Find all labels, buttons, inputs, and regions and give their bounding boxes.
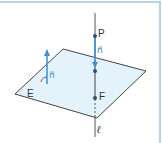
plane-e [15,49,146,118]
label-line-l: ℓ [97,125,100,135]
label-f: F [99,92,105,102]
label-normal-right: n⃗ [97,45,103,55]
arrowhead-up-icon [44,49,50,56]
diagram-frame: P n⃗ n⃗ F E ℓ [0,0,162,143]
label-normal-left: n⃗ [49,70,55,80]
label-plane-e: E [27,89,34,99]
point-p [93,34,97,38]
label-p: P [98,29,105,39]
diagram-canvas [0,0,162,143]
point-on-plane [93,69,97,73]
point-f [93,96,97,100]
